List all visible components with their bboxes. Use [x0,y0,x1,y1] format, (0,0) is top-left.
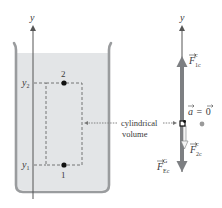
svg-text:1c: 1c [195,62,201,68]
acceleration-label: a = 0 [188,105,213,118]
annotation-line2: volume [122,129,148,139]
right-axis-label: y [179,12,185,23]
left-axis-label: y [29,12,35,23]
point-2 [61,80,66,85]
svg-text:Ec: Ec [163,168,170,174]
point-2-label: 2 [61,69,66,79]
center-of-mass-dot [200,122,205,127]
force-label-1c: F c 1c [188,52,201,68]
point-1-label: 1 [61,170,66,180]
svg-text:a = 0: a = 0 [188,106,211,117]
object-marker [183,120,186,123]
svg-text:2c: 2c [196,151,202,157]
point-1 [61,162,66,167]
force-label-gravity: F G Ec [156,158,170,174]
diagram-canvas: y y2 y1 2 1 cylindrical volume y [0,0,222,208]
force-vector-1c [177,56,188,124]
force-label-2c: F c 2c [189,141,202,157]
annotation-line1: cylindrical [121,118,158,128]
